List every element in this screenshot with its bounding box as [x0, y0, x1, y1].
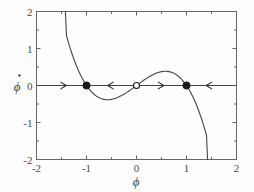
fixed-point-stable-left: [83, 82, 90, 89]
y-tick-label: -1: [23, 117, 32, 129]
plot-canvas: -2-1012 -2-1012 ϕ ϕ: [0, 0, 254, 192]
x-tick-label: -1: [82, 162, 91, 174]
x-axis-label: ϕ: [133, 174, 140, 189]
y-tick-label: 0: [27, 80, 33, 92]
y-axis-label-dot-accent: [18, 74, 20, 76]
x-tick-label: -2: [32, 162, 41, 174]
y-tick-label: 2: [27, 6, 33, 18]
y-axis-label: ϕ: [14, 79, 21, 94]
fixed-point-stable-right: [183, 82, 190, 89]
phase-portrait-figure: -2-1012 -2-1012 ϕ ϕ: [0, 0, 254, 192]
x-tick-label: 0: [134, 162, 140, 174]
x-tick-label: 2: [234, 162, 240, 174]
fixed-point-unstable-origin: [134, 83, 140, 89]
y-tick-label: -2: [23, 154, 32, 166]
x-tick-label: 1: [184, 162, 190, 174]
y-tick-label: 1: [27, 43, 33, 55]
